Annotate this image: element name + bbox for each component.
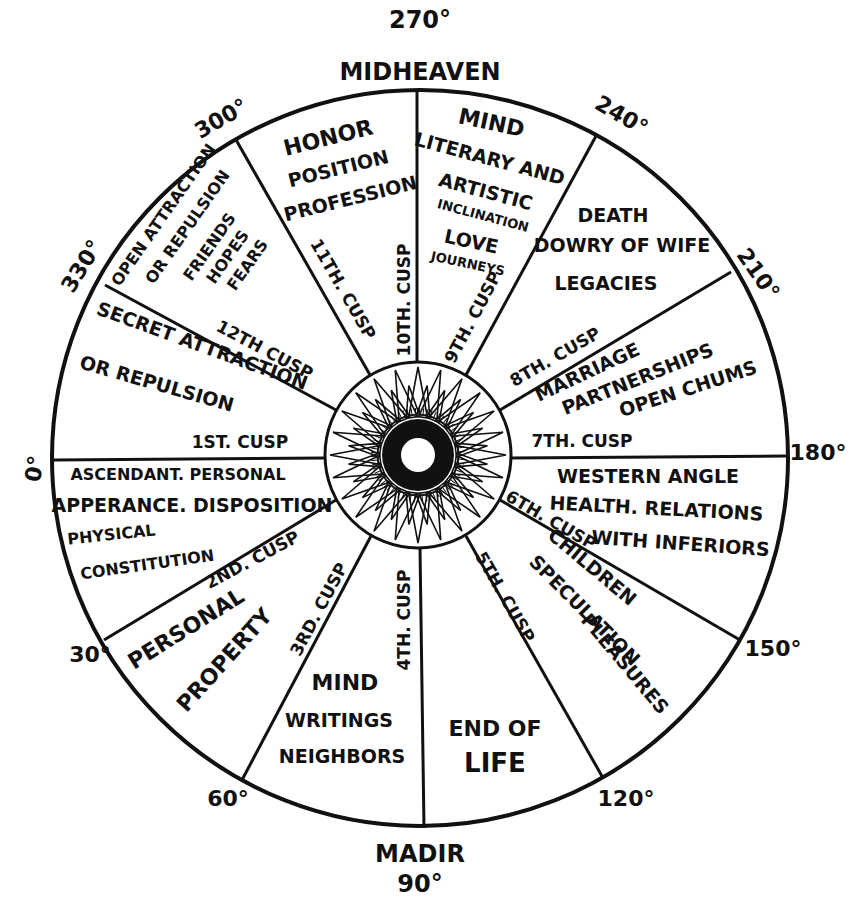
divider-0 (54, 458, 325, 460)
degree-mark-120: 120° (598, 786, 655, 811)
house-5-line: PLEASURES (577, 609, 674, 718)
house-8-line: DEATH (578, 204, 649, 226)
sunflower-emblem-icon (330, 367, 506, 543)
cusp-9-label: 9TH. CUSP (440, 268, 505, 367)
cusp-3-label: 3RD. CUSP (286, 559, 352, 659)
house-9-line: MIND (456, 103, 527, 141)
house-1-line: PHYSICAL (66, 520, 156, 548)
madir-label: MADIR (375, 840, 465, 868)
house-3-line: MIND (312, 670, 379, 695)
house-6-line: HEALTH. RELATIONS (549, 491, 764, 524)
divider-90 (420, 548, 424, 828)
house-4-line: LIFE (464, 748, 526, 778)
house-2: PERSONAL PROPERTY (123, 583, 277, 717)
degree-mark-330: 330° (56, 235, 107, 297)
house-1: ASCENDANT. PERSONAL APPERANCE. DISPOSITI… (52, 465, 333, 583)
cusp-1-label: 1ST. CUSP (192, 432, 288, 452)
degree-mark-0: 0° (20, 454, 49, 484)
house-3: MIND WRITINGS NEIGHBORS (279, 670, 405, 767)
house-11: OPEN ATTRACTION OR REPULSION FRIENDS HOP… (107, 140, 272, 294)
house-3-line: WRITINGS (285, 709, 393, 731)
house-3-line: NEIGHBORS (279, 745, 405, 767)
house-8-line: DOWRY OF WIFE (534, 234, 711, 256)
house-5: CHILDREN SPECULATION PLEASURES (525, 523, 674, 718)
degree-mark-60: 60° (207, 786, 249, 811)
degree-mark-150: 150° (745, 636, 802, 661)
house-1-line: ASCENDANT. PERSONAL (70, 465, 285, 484)
astrological-wheel: 270° MIDHEAVEN MADIR 90° 0° 30° 60° 120°… (0, 0, 866, 912)
house-4: END OF LIFE (448, 716, 541, 778)
cusp-7-label: 7TH. CUSP (531, 431, 632, 451)
house-9-line: LITERARY AND (412, 128, 567, 189)
divider-180 (511, 456, 786, 458)
house-1-line: CONSTITUTION (79, 546, 215, 584)
house-6-line: WESTERN ANGLE (557, 465, 739, 487)
cusp-10-label: 10TH. CUSP (394, 244, 414, 357)
cusp-2-label: 2ND. CUSP (202, 527, 303, 593)
cusp-4-label: 4TH. CUSP (394, 569, 414, 670)
degree-mark-180: 180° (790, 440, 847, 465)
divider-60 (242, 536, 371, 780)
house-1-line: APPERANCE. DISPOSITION (52, 494, 333, 516)
degree-mark-30: 30° (69, 642, 111, 667)
house-8-line: LEGACIES (554, 272, 657, 294)
degree-mark-240: 240° (591, 90, 653, 140)
house-10: HONOR POSITION PROFESSION (281, 115, 419, 226)
house-4-line: END OF (448, 716, 541, 741)
midheaven-label: MIDHEAVEN (339, 58, 500, 86)
house-6-line: WITH INFERIORS (591, 526, 771, 560)
bottom-degree-label: 90° (397, 870, 442, 898)
house-8: DEATH DOWRY OF WIFE LEGACIES (534, 204, 711, 294)
top-degree-label: 270° (389, 6, 451, 34)
